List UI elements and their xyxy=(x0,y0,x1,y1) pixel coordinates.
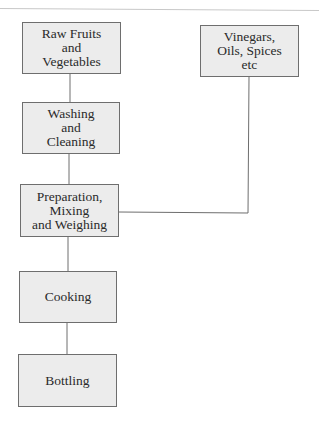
edge-vinegars-to-preparation xyxy=(119,77,249,213)
node-bottling: Bottling xyxy=(18,354,117,407)
node-vinegars-oils-spices: Vinegars, Oils, Spices etc xyxy=(200,25,299,77)
cropped-caption-fragment xyxy=(8,412,148,418)
node-preparation-mixing-weighing: Preparation, Mixing and Weighing xyxy=(20,184,119,237)
node-washing-cleaning: Washing and Cleaning xyxy=(22,102,120,154)
node-cooking: Cooking xyxy=(19,271,117,323)
node-raw-fruits-vegetables: Raw Fruits and Vegetables xyxy=(22,22,121,74)
